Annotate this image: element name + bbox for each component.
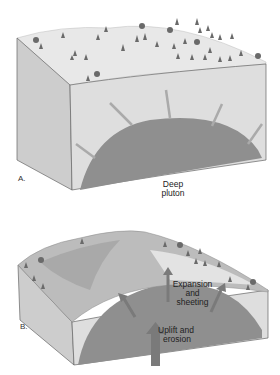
block-a	[17, 18, 266, 190]
label-expansion-sheeting: Expansion and sheeting	[170, 280, 215, 307]
diagram-canvas	[0, 0, 280, 375]
label-line: erosion	[158, 335, 208, 344]
block-b	[18, 231, 268, 366]
panel-label-a: A.	[18, 174, 26, 183]
label-line: sheeting	[170, 298, 215, 307]
label-uplift-erosion: Uplift and erosion	[158, 326, 208, 344]
label-line: pluton	[158, 189, 188, 198]
label-deep-pluton: Deep pluton	[158, 180, 188, 198]
panel-label-b: B.	[20, 322, 28, 331]
